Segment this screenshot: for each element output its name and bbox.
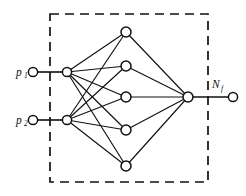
- input-terminal-1: [28, 67, 37, 76]
- output-node: [183, 92, 193, 102]
- hidden-node-4: [121, 125, 131, 135]
- network-diagram-canvas: p 1 p 2 N f: [0, 0, 246, 196]
- output-label: N f: [211, 78, 224, 93]
- input-terminal-nodes: [28, 67, 37, 124]
- hidden-node-3: [121, 92, 131, 102]
- input-node-2: [62, 115, 71, 124]
- terminal-lead-lines: [37, 72, 229, 120]
- output-label-subscript: f: [221, 84, 224, 93]
- edge-i1-h2: [67, 66, 126, 72]
- input-to-hidden-edges: [67, 32, 126, 166]
- input-label-1-subscript: 1: [24, 71, 28, 80]
- edge-i2-h5: [67, 120, 126, 166]
- output-terminal-nodes: [228, 92, 237, 101]
- edge-h4-o: [126, 97, 188, 130]
- edge-h5-o: [126, 97, 188, 166]
- input-label-1-base: p: [15, 66, 22, 79]
- hidden-layer-nodes: [121, 27, 131, 171]
- edge-h1-o: [126, 32, 188, 97]
- edge-i1-h5: [67, 72, 126, 166]
- hidden-node-1: [121, 27, 131, 37]
- input-layer-nodes: [62, 67, 71, 124]
- input-terminal-2: [28, 115, 37, 124]
- input-label-2: p 2: [15, 114, 28, 128]
- output-layer-nodes: [183, 92, 193, 102]
- edge-h2-o: [126, 66, 188, 97]
- hidden-to-output-edges: [126, 32, 188, 166]
- input-label-2-base: p: [15, 114, 22, 127]
- hidden-node-2: [121, 61, 131, 71]
- neural-network-figure: p 1 p 2 N f: [0, 0, 246, 196]
- output-label-base: N: [211, 78, 221, 90]
- hidden-node-5: [121, 161, 131, 171]
- input-node-1: [62, 67, 71, 76]
- output-terminal: [228, 92, 237, 101]
- edge-i1-h1: [67, 32, 126, 72]
- input-label-1: p 1: [15, 66, 28, 80]
- input-label-2-subscript: 2: [24, 119, 28, 128]
